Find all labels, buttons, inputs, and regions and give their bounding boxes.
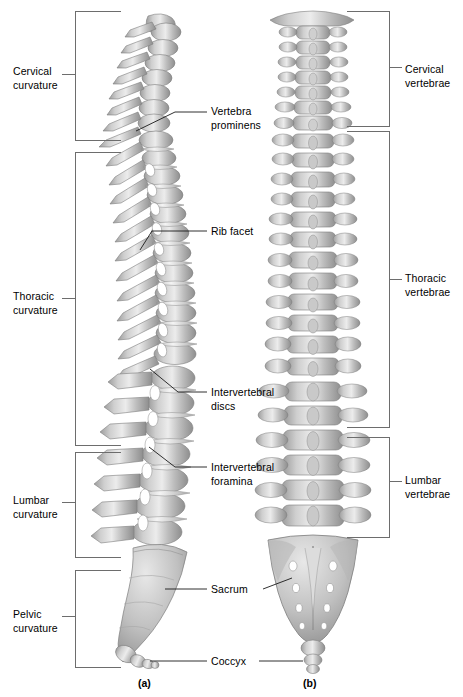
label-cervical-vertebrae: Cervical vertebrae [405,63,463,90]
caption-panel-b: (b) [303,677,316,689]
thoracic-region-lateral [106,131,197,378]
label-intervertebral-discs: Intervertebral discs [211,386,287,413]
label-lumbar-vertebrae: Lumbar vertebrae [405,474,463,501]
sacrum-coccyx-lateral [113,544,187,669]
label-cervical-curvature: Cervical curvature [13,65,63,92]
label-intervertebral-foramina: Intervertebral foramina [211,461,287,488]
bracket-cervical-vertebrae [389,11,390,127]
caption-panel-a: (a) [138,677,151,689]
sacrum-coccyx-posterior [268,535,358,674]
bracket-thoracic-vertebrae [389,131,390,428]
lumbar-region-lateral [91,366,196,545]
label-vertebra-prominens: Vertebra prominens [211,105,281,132]
bracket-pelvic-curvature [75,570,76,668]
label-coccyx: Coccyx [211,655,267,669]
bracket-lumbar-curvature [75,452,76,558]
label-pelvic-curvature: Pelvic curvature [13,608,65,635]
label-lumbar-curvature: Lumbar curvature [13,494,65,521]
label-thoracic-vertebrae: Thoracic vertebrae [405,272,463,299]
cervical-region-lateral [99,14,181,147]
label-sacrum: Sacrum [211,583,267,597]
label-thoracic-curvature: Thoracic curvature [13,290,65,317]
cervical-region-posterior [270,11,354,131]
vertebral-column-figure: Cervical curvature Thoracic curvature Lu… [0,0,463,697]
label-rib-facet: Rib facet [211,225,281,239]
bracket-cervical-curvature [75,11,76,141]
bracket-thoracic-curvature [75,152,76,446]
bracket-lumbar-vertebrae [389,437,390,538]
thoracic-region-posterior [265,134,361,377]
